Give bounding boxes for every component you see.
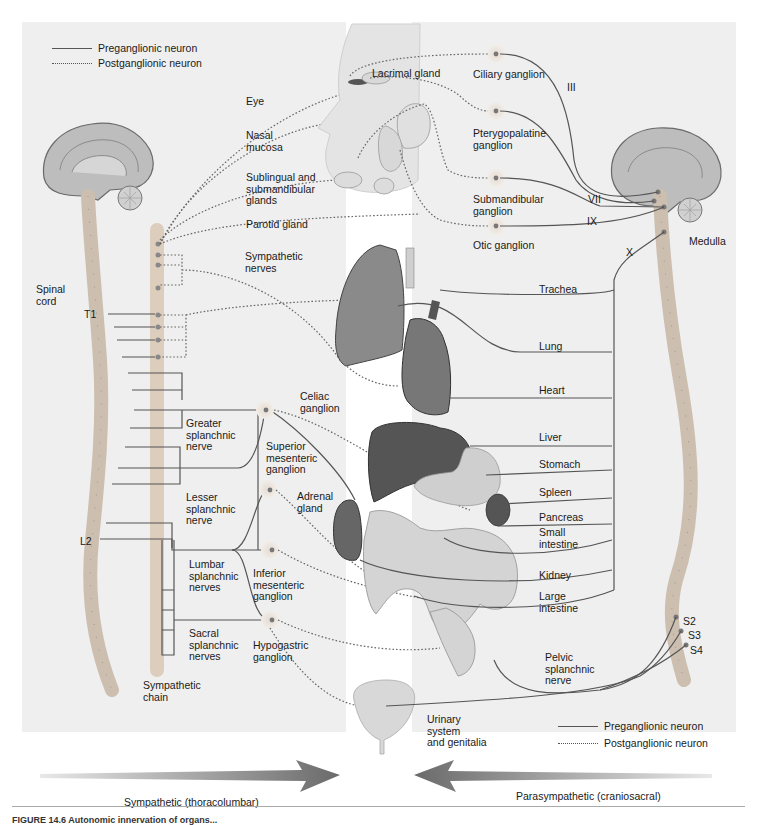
legend-label: Postganglionic neuron	[604, 737, 708, 749]
label-organ-lung: Lung	[539, 341, 562, 353]
spleen-illustration	[486, 494, 510, 526]
label-s4: S4	[690, 645, 703, 657]
label-inferior-mesenteric: Inferior mesenteric ganglion	[253, 568, 304, 603]
label-superior-mesenteric: Superior mesenteric ganglion	[266, 441, 317, 476]
label-s2: S2	[683, 616, 696, 628]
legend-postganglionic-top: Postganglionic neuron	[52, 57, 202, 69]
legend-label: Preganglionic neuron	[98, 42, 197, 54]
label-adrenal-gland: Adrenal gland	[297, 491, 333, 514]
label-sympathetic-nerves: Sympathetic nerves	[245, 251, 303, 274]
inferior-mesenteric-ganglion-icon	[261, 541, 279, 559]
legend-postganglionic-bottom: Postganglionic neuron	[558, 737, 708, 749]
right-spinal-cord	[652, 190, 691, 681]
label-organ-small-intestine: Small intestine	[539, 527, 578, 550]
left-spinal-cord	[88, 196, 112, 690]
label-organ-large-intestine: Large intestine	[539, 591, 578, 614]
label-organ-stomach: Stomach	[539, 459, 580, 471]
label-spinal-cord: Spinal cord	[36, 284, 65, 307]
superior-mesenteric-ganglion-icon	[259, 480, 277, 498]
label-sacral-splanchnic: Sacral splanchnic nerves	[189, 628, 239, 663]
sympathetic-chain	[156, 230, 161, 670]
label-otic-ganglion: Otic ganglion	[473, 240, 534, 252]
label-cn-vii: VII	[588, 194, 601, 206]
hypogastric-ganglion-icon	[261, 611, 279, 629]
label-parasympathetic-arrow: Parasympathetic (craniosacral)	[516, 790, 661, 802]
label-s3: S3	[688, 630, 701, 642]
label-organ-kidney: Kidney	[539, 570, 571, 582]
label-cn-x: X	[626, 247, 633, 259]
legend-label: Preganglionic neuron	[604, 720, 703, 732]
sympathetic-arrow	[40, 760, 340, 792]
intestine-illustration	[364, 511, 518, 676]
figure-caption: FIGURE 14.6 Autonomic innervation of org…	[12, 815, 217, 825]
label-pelvic-splanchnic: Pelvic splanchnic nerve	[545, 652, 595, 687]
label-organ-spleen: Spleen	[539, 487, 572, 499]
label-nasal-mucosa: Nasal mucosa	[246, 130, 283, 153]
legend-label: Postganglionic neuron	[98, 57, 202, 69]
label-sublingual-submandibular: Sublingual and submandibular glands	[246, 172, 315, 207]
label-lacrimal-gland: Lacrimal gland	[372, 68, 440, 80]
face-illustration	[318, 24, 430, 194]
label-organ-trachea: Trachea	[539, 284, 577, 296]
label-eye: Eye	[246, 96, 264, 108]
label-parotid-gland: Parotid gland	[246, 219, 308, 231]
label-ciliary-ganglion: Ciliary ganglion	[473, 69, 545, 81]
label-lesser-splanchnic: Lesser splanchnic nerve	[186, 492, 236, 527]
dotted-line-icon	[52, 63, 92, 64]
celiac-ganglion-icon	[256, 401, 274, 419]
label-t1: T1	[84, 309, 96, 321]
bladder-illustration	[354, 680, 415, 754]
label-sympathetic-chain: Sympathetic chain	[143, 680, 201, 703]
left-brain-icon	[43, 123, 153, 210]
label-submandibular-ganglion: Submandibular ganglion	[473, 194, 544, 217]
label-lumbar-splanchnic: Lumbar splanchnic nerves	[189, 559, 239, 594]
legend-preganglionic-bottom: Preganglionic neuron	[558, 720, 703, 732]
label-organ-pancreas: Pancreas	[539, 512, 583, 524]
label-greater-splanchnic: Greater splanchnic nerve	[186, 418, 236, 453]
label-urinary-system: Urinary system and genitalia	[427, 714, 487, 749]
label-organ-liver: Liver	[539, 432, 562, 444]
caption-divider	[12, 806, 745, 807]
label-organ-heart: Heart	[539, 385, 565, 397]
label-pterygopalatine-ganglion: Pterygopalatine ganglion	[473, 128, 546, 151]
solid-line-icon	[52, 48, 92, 49]
parasympathetic-arrow	[414, 760, 712, 792]
solid-line-icon	[558, 726, 598, 727]
dotted-line-icon	[558, 743, 598, 744]
kidney-illustration	[334, 500, 362, 560]
heart-illustration	[402, 300, 451, 415]
legend-preganglionic-top: Preganglionic neuron	[52, 42, 197, 54]
label-celiac-ganglion: Celiac ganglion	[300, 391, 340, 414]
label-l2: L2	[80, 536, 92, 548]
label-cn-ix: IX	[587, 216, 597, 228]
label-cn-iii: III	[567, 82, 576, 94]
label-medulla: Medulla	[689, 236, 726, 248]
label-hypogastric-ganglion: Hypogastric ganglion	[253, 640, 308, 663]
